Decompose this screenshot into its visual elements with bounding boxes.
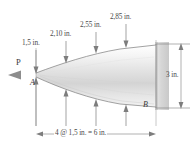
top-dim-label-0: 1,5 in. [22, 39, 40, 46]
point-label-b: B [143, 101, 148, 109]
top-dim-label-3: 2,85 in. [110, 13, 131, 20]
tapered-bar-body [36, 45, 156, 107]
tapered-bar-figure: P A B 1,5 in. 2,10 in. 2,55 in. 2,85 in.… [0, 0, 194, 154]
point-label-a: A [30, 79, 35, 87]
top-dim-label-1: 2,10 in. [50, 30, 71, 37]
bottom-dim-label: 4 @ 1,5 in. = 6 in. [54, 129, 107, 136]
right-dim-label: 3 in. [166, 71, 178, 78]
top-dim-label-2: 2,55 in. [80, 21, 101, 28]
force-label-p: P [16, 58, 21, 67]
